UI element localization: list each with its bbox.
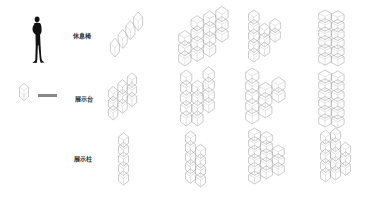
display-platform-config-3: [245, 68, 287, 124]
rest-chair-config-4: [318, 10, 346, 66]
display-platform-config-2: [180, 70, 216, 126]
row-label-rest-chair: 休息椅: [73, 31, 92, 40]
rest-chair-config-3: [248, 10, 282, 62]
row-label-display-platform: 展示台: [75, 94, 94, 103]
hexagon-module-icon: [19, 83, 29, 101]
human-silhouette-icon: [28, 16, 48, 64]
legend-label: [38, 94, 57, 97]
display-column-config-1: [118, 133, 130, 185]
display-column-config-3: [248, 128, 286, 184]
display-platform-config-4: [318, 70, 346, 128]
rest-chair-config-1: [110, 12, 144, 57]
rest-chair-config-2: [178, 8, 230, 66]
row-label-display-column: 展示柱: [74, 154, 93, 163]
display-platform-config-1: [108, 72, 138, 120]
display-column-config-4: [320, 130, 352, 182]
display-column-config-2: [185, 131, 207, 187]
